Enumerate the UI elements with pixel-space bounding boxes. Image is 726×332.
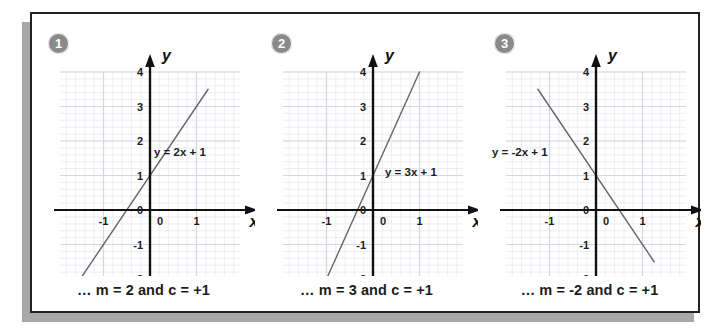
y-tick-label: 4	[583, 66, 590, 78]
y-tick-label: 1	[137, 170, 143, 182]
panel-caption-3: … m = -2 and c = +1	[478, 282, 701, 298]
y-tick-label: 3	[360, 101, 366, 113]
y-tick-label: 0	[583, 204, 589, 216]
y-tick-label: -2	[579, 273, 589, 276]
x-tick-label: 1	[193, 215, 199, 227]
graph-panel-1: 1 -2-101234-101xyy = 2x + 1 … m = 2 and …	[32, 14, 255, 311]
y-axis-name-label: y	[161, 48, 172, 64]
y-tick-label: 3	[583, 101, 589, 113]
y-tick-label: 0	[137, 204, 143, 216]
y-tick-label: 4	[360, 66, 367, 78]
x-tick-label: 0	[380, 215, 386, 227]
panel-caption-2: … m = 3 and c = +1	[255, 282, 478, 298]
x-axis-name-label: x	[695, 213, 701, 230]
y-tick-label: 2	[360, 135, 366, 147]
x-tick-label: 1	[639, 215, 645, 227]
equation-label: y = 3x + 1	[385, 166, 437, 178]
figure-root: 1 -2-101234-101xyy = 2x + 1 … m = 2 and …	[0, 0, 726, 332]
equation-label: y = 2x + 1	[154, 146, 206, 158]
y-axis-name-label: y	[384, 48, 395, 64]
y-axis-arrowhead	[368, 54, 378, 67]
panel-caption-1: … m = 2 and c = +1	[32, 282, 255, 298]
y-tick-label: 2	[583, 135, 589, 147]
graph-svg-2: -2-101234-101xyy = 3x + 1	[255, 48, 478, 276]
x-tick-label: -1	[322, 215, 332, 227]
y-tick-label: 4	[137, 66, 144, 78]
y-tick-label: -2	[356, 273, 366, 276]
x-tick-label: 0	[157, 215, 163, 227]
graph-svg-1: -2-101234-101xyy = 2x + 1	[32, 48, 255, 276]
equation-label: y = -2x + 1	[492, 146, 548, 158]
graph-area-2: -2-101234-101xyy = 3x + 1	[255, 48, 478, 276]
y-axis-name-label: y	[607, 48, 618, 64]
y-tick-label: -1	[356, 239, 366, 251]
graph-panel-2: 2 -2-101234-101xyy = 3x + 1 … m = 3 and …	[255, 14, 478, 311]
y-tick-label: 1	[360, 170, 366, 182]
y-tick-label: 1	[583, 170, 589, 182]
graph-svg-3: -2-101234-101xyy = -2x + 1	[478, 48, 701, 276]
y-axis-arrowhead	[145, 54, 155, 67]
y-tick-label: -1	[579, 239, 589, 251]
y-tick-label: -2	[133, 273, 143, 276]
graph-area-3: -2-101234-101xyy = -2x + 1	[478, 48, 701, 276]
graph-panel-3: 3 -2-101234-101xyy = -2x + 1 … m = -2 an…	[478, 14, 701, 311]
x-tick-label: -1	[545, 215, 555, 227]
y-tick-label: 3	[137, 101, 143, 113]
y-tick-label: -1	[133, 239, 143, 251]
y-tick-label: 2	[137, 135, 143, 147]
panel-container: 1 -2-101234-101xyy = 2x + 1 … m = 2 and …	[32, 14, 698, 311]
y-axis-arrowhead	[591, 54, 601, 67]
figure-frame: 1 -2-101234-101xyy = 2x + 1 … m = 2 and …	[30, 12, 700, 313]
y-tick-label: 0	[360, 204, 366, 216]
x-tick-label: 0	[603, 215, 609, 227]
x-tick-label: 1	[416, 215, 422, 227]
graph-area-1: -2-101234-101xyy = 2x + 1	[32, 48, 255, 276]
x-tick-label: -1	[99, 215, 109, 227]
